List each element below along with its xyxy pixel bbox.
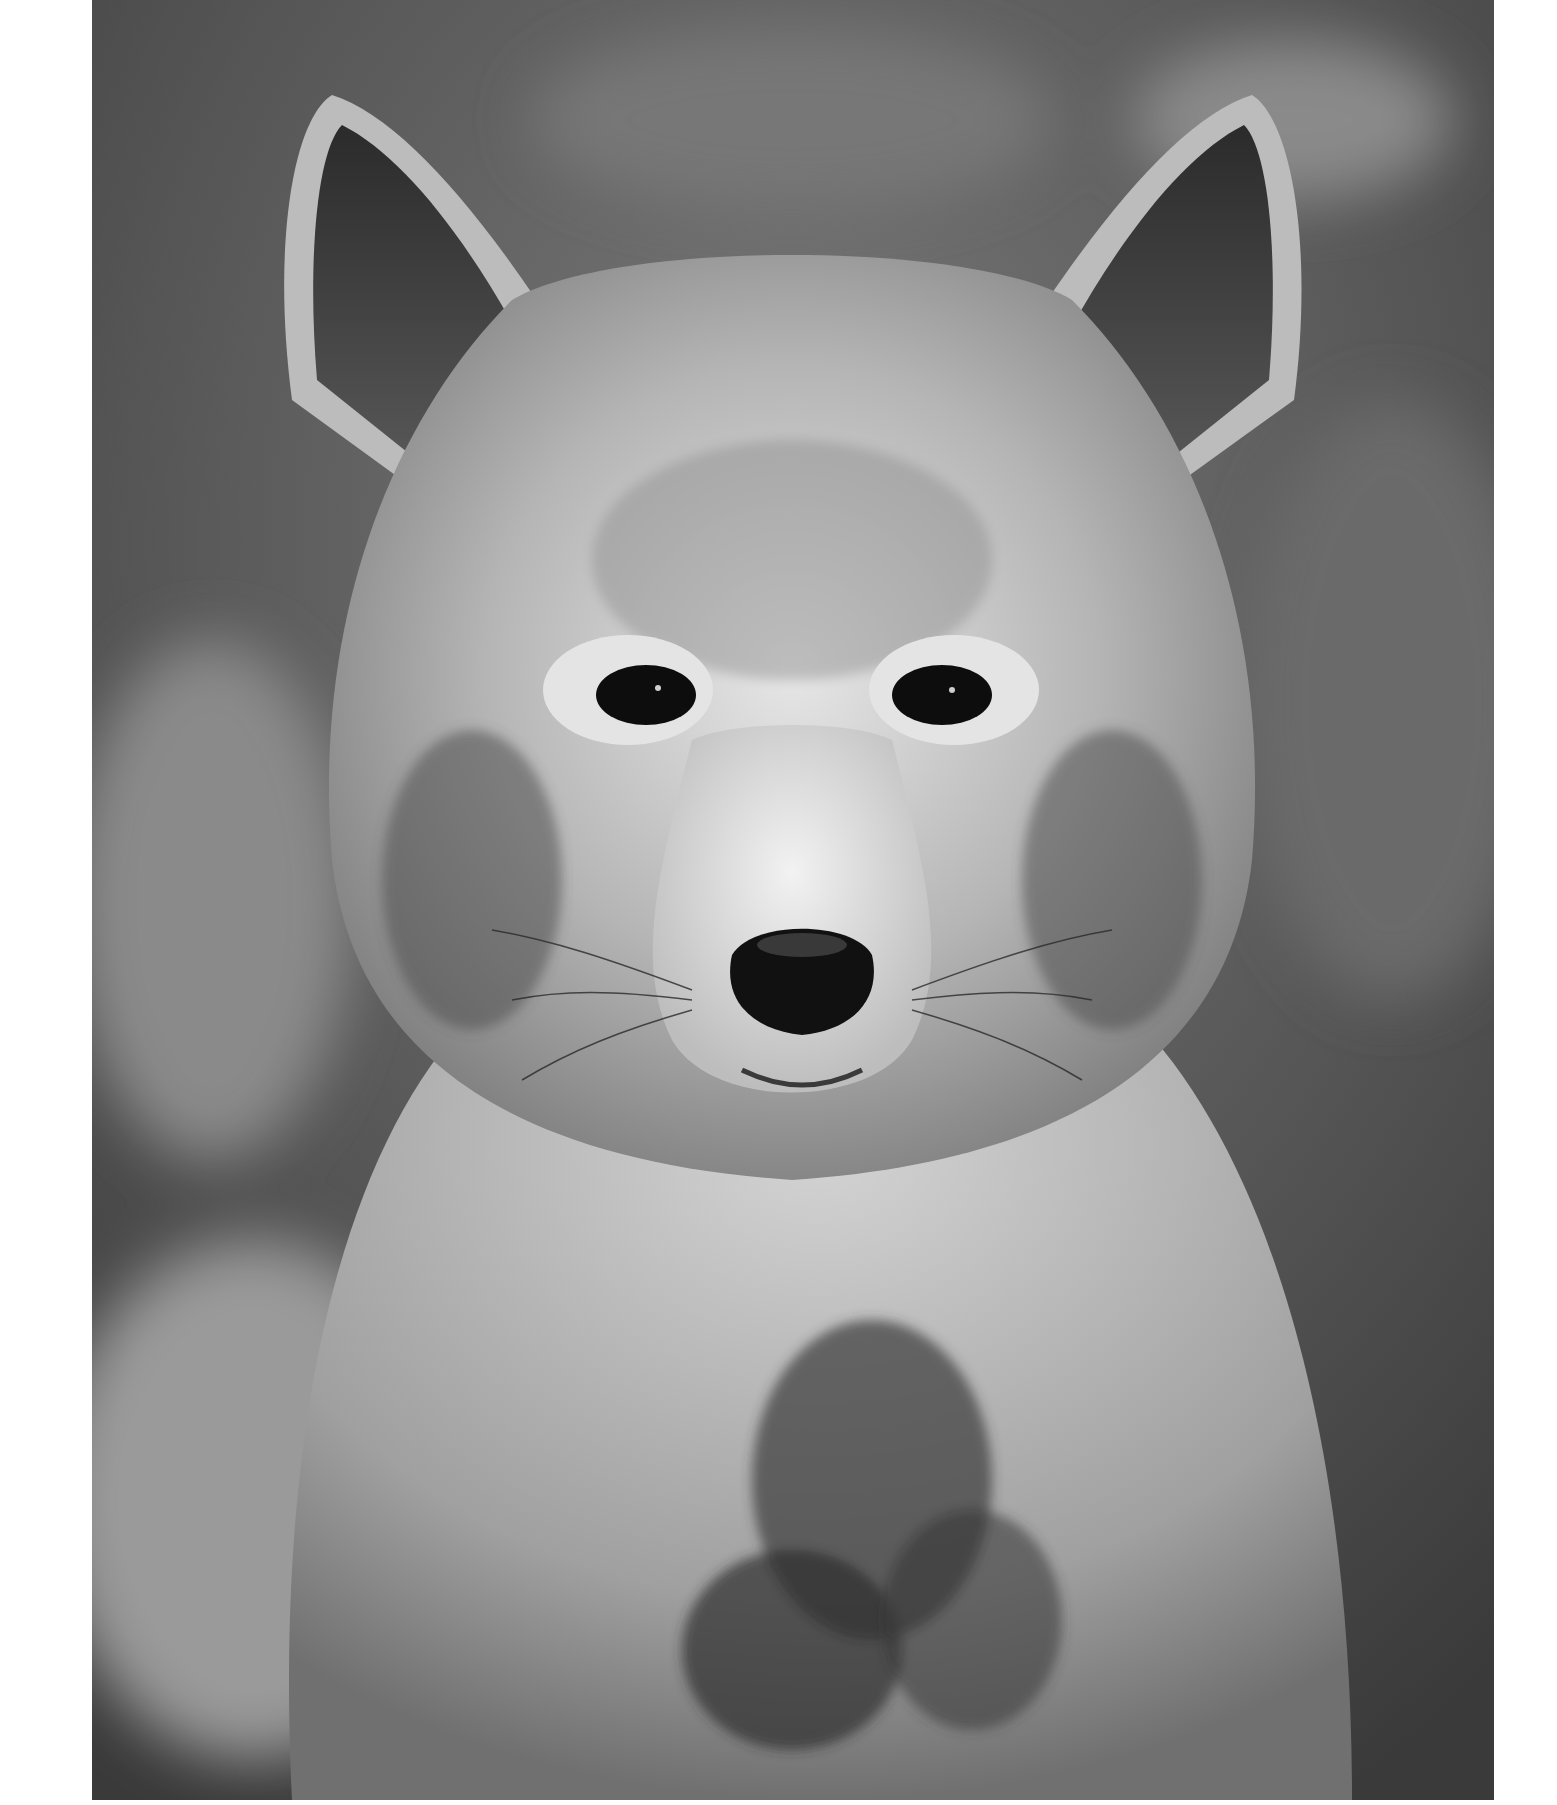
coyote-illustration [92, 0, 1494, 1800]
left-eye [596, 665, 696, 725]
right-eye [892, 665, 992, 725]
coyote-photo [92, 0, 1494, 1800]
page [0, 0, 1557, 1805]
coyote-muzzle [653, 725, 932, 1093]
